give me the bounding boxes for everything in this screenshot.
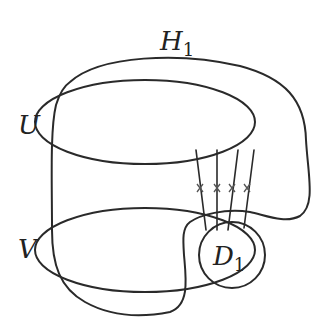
cross-marks (197, 184, 250, 192)
outer-curve-h1 (52, 58, 310, 315)
label-d1: D1 (212, 241, 245, 275)
ellipse-u (35, 80, 255, 164)
label-u: U (18, 110, 41, 140)
topology-diagram: H1 U V D1 (0, 0, 334, 326)
label-h1: H1 (159, 26, 194, 60)
label-v: V (18, 234, 39, 264)
